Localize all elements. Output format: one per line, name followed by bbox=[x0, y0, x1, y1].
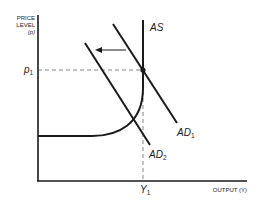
ad2-line bbox=[85, 43, 150, 145]
ad1-line bbox=[113, 24, 177, 123]
ad1-label: AD1 bbox=[176, 127, 195, 139]
y-axis-label-line3: (p) bbox=[28, 29, 35, 35]
y1-label: Y1 bbox=[140, 184, 151, 196]
as-curve bbox=[38, 20, 143, 136]
as-label: AS bbox=[149, 22, 164, 33]
ad2-label: AD2 bbox=[148, 149, 167, 161]
p1-label: p1 bbox=[23, 64, 34, 76]
left-arrow-icon bbox=[95, 47, 126, 53]
x-axis-label: OUTPUT (Y) bbox=[213, 187, 247, 193]
y-axis-label-line2: LEVEL bbox=[16, 22, 35, 28]
equilibrium-point bbox=[140, 67, 145, 72]
y-axis-label-line1: PRICE bbox=[17, 15, 35, 21]
as-ad-diagram: PRICE LEVEL (p) p1 AS AD1 AD2 Y1 OUTPUT … bbox=[0, 0, 262, 203]
